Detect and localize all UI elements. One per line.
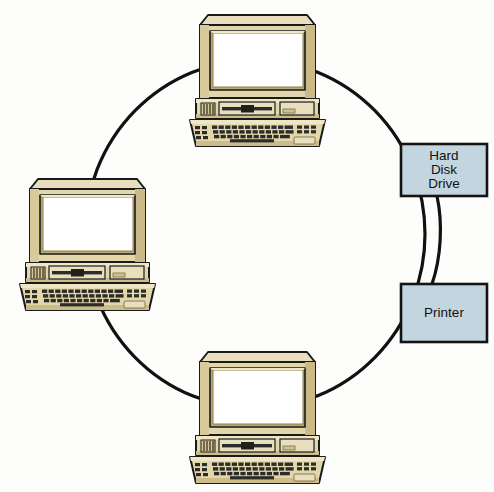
computer-workstation-bottom[interactable]	[190, 352, 325, 483]
printer-node[interactable]: Printer	[401, 284, 487, 342]
hard-disk-drive-node[interactable]: Hard Disk Drive	[401, 144, 487, 196]
computer-workstation-left[interactable]	[20, 179, 155, 310]
printer-label: Printer	[424, 305, 464, 320]
hard-disk-drive-label-line-3: Drive	[428, 176, 460, 191]
diagram-canvas: Hard Disk Drive Printer	[0, 0, 494, 492]
ring-topology-diagram: Hard Disk Drive Printer	[0, 0, 494, 492]
hard-disk-drive-label-line-1: Hard	[429, 148, 458, 163]
link-hdd-to-printer	[432, 196, 440, 284]
hard-disk-drive-label-line-2: Disk	[431, 162, 457, 177]
computer-workstation-top[interactable]	[190, 15, 325, 146]
